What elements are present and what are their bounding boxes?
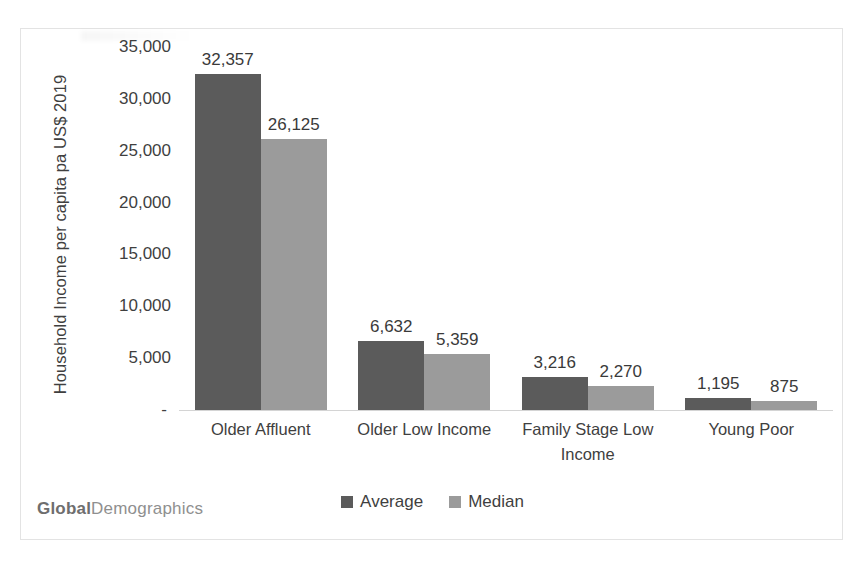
legend-label: Average [360, 492, 423, 512]
legend-label: Median [468, 492, 524, 512]
watermark-globaldemographics: GlobalDemographics [37, 499, 203, 519]
bar-average[interactable] [685, 398, 751, 410]
y-tick-label: - [49, 400, 171, 420]
bar-group: 32,35726,125 [179, 47, 343, 410]
y-tick-label: 25,000 [53, 141, 171, 161]
bar-value-label: 1,195 [697, 374, 740, 394]
legend-item-median[interactable]: Median [449, 492, 524, 512]
bar-value-label: 3,216 [533, 353, 576, 373]
y-axis-tick-labels: 35,00030,00025,00020,00015,00010,0005,00… [53, 29, 171, 541]
bar-value-label: 2,270 [599, 362, 642, 382]
y-tick-label: 15,000 [53, 244, 171, 264]
plot-area: 32,35726,1256,6325,3593,2162,2701,195875 [179, 47, 833, 410]
bar-value-label: 875 [770, 377, 798, 397]
bar-value-label: 5,359 [436, 330, 479, 350]
legend-swatch-icon [449, 496, 461, 508]
y-tick-label: 5,000 [53, 348, 171, 368]
x-axis-category-labels: Older AffluentOlder Low IncomeFamily Sta… [179, 417, 833, 487]
bar-median[interactable] [424, 354, 490, 410]
y-tick-label: 10,000 [53, 296, 171, 316]
chart-container: Household Income per capita pa US$ 2019 … [20, 28, 843, 540]
bar-group: 3,2162,270 [506, 47, 670, 410]
bar-average[interactable] [522, 377, 588, 410]
bar-group: 6,6325,359 [343, 47, 507, 410]
bar-value-label: 6,632 [370, 317, 413, 337]
y-tick-label: 30,000 [53, 89, 171, 109]
category-label: Older Low Income [343, 417, 507, 442]
bar-median[interactable] [588, 386, 654, 410]
category-label: Young Poor [670, 417, 834, 442]
watermark-bold-text: Global [37, 499, 91, 518]
category-label: Family Stage Low Income [506, 417, 670, 467]
bar-average[interactable] [195, 74, 261, 410]
bar-value-label: 26,125 [268, 115, 320, 135]
y-tick-label: 20,000 [53, 193, 171, 213]
legend-item-average[interactable]: Average [341, 492, 423, 512]
legend-swatch-icon [341, 496, 353, 508]
category-label: Older Affluent [179, 417, 343, 442]
y-tick-label: 35,000 [53, 37, 171, 57]
x-axis-line [179, 410, 833, 411]
watermark-light-text: Demographics [91, 499, 203, 518]
bar-average[interactable] [358, 341, 424, 410]
bar-value-label: 32,357 [202, 50, 254, 70]
bar-group: 1,195875 [670, 47, 834, 410]
bar-median[interactable] [751, 401, 817, 410]
bar-median[interactable] [261, 139, 327, 410]
